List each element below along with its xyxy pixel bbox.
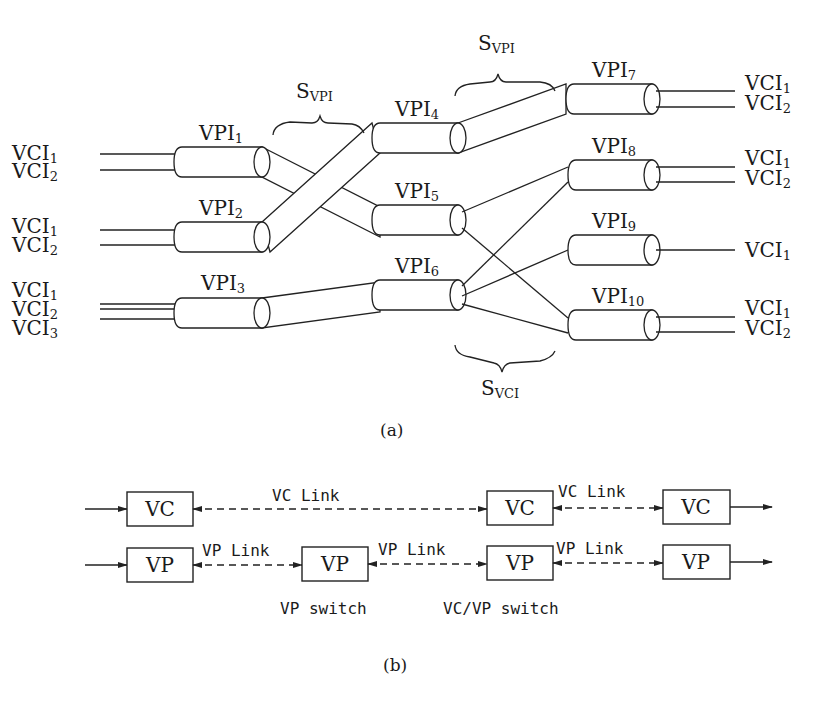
vp-switch-label: VP switch bbox=[280, 599, 367, 618]
vpi9-label: VPI9 bbox=[591, 209, 636, 234]
vc-link-label-1: VC Link bbox=[272, 486, 340, 505]
vpi6-label: VPI6 bbox=[394, 254, 439, 279]
vpi2-cylinder bbox=[174, 222, 270, 252]
vpi8-label: VPI8 bbox=[591, 134, 636, 159]
vpi8-cylinder bbox=[568, 160, 660, 190]
vpi7-label: VPI7 bbox=[591, 58, 636, 83]
caption-b: (b) bbox=[383, 655, 407, 675]
vpi3-label: VPI3 bbox=[200, 271, 245, 296]
svg-text:VP: VP bbox=[145, 553, 174, 577]
caption-a: (a) bbox=[380, 420, 403, 440]
vpi5-label: VPI5 bbox=[394, 179, 439, 204]
vc-switch-lines bbox=[462, 167, 568, 333]
part-b-link-hierarchy: VC VC VC VC Link VC Link VP VP VP VP VP … bbox=[85, 482, 772, 675]
atm-vp-vc-switching-diagram: VCI1 VCI2 VCI1 VCI2 VCI1 VCI2 VCI3 VPI1 … bbox=[0, 0, 824, 710]
vp-link-label-2: VP Link bbox=[378, 540, 446, 559]
vp-row: VP VP VP VP VP Link VP Link VP Link bbox=[85, 539, 772, 582]
vpi2-label: VPI2 bbox=[198, 196, 243, 221]
vpi6-cylinder bbox=[372, 280, 466, 310]
svpi-left-label: SVPI bbox=[296, 79, 333, 104]
svpi-left-brace bbox=[273, 116, 364, 135]
output-vci-lines bbox=[656, 91, 735, 332]
vc-row: VC VC VC VC Link VC Link bbox=[85, 482, 772, 526]
svci-label: SVCI bbox=[481, 376, 519, 401]
svg-text:VC: VC bbox=[504, 496, 535, 520]
vpi4-cylinder bbox=[372, 123, 466, 153]
vpi7-cylinder bbox=[566, 84, 660, 114]
vpi1-label: VPI1 bbox=[198, 121, 243, 146]
svg-text:VC: VC bbox=[680, 495, 711, 519]
svci-brace bbox=[455, 345, 555, 372]
vpi4-label: VPI4 bbox=[394, 97, 439, 122]
vc-link-label-2: VC Link bbox=[558, 482, 626, 501]
vpi1-cylinder bbox=[174, 147, 270, 177]
vp-link-label-3: VP Link bbox=[556, 539, 624, 558]
vpi3-cylinder bbox=[174, 298, 270, 328]
svpi-right-label: SVPI bbox=[478, 31, 515, 56]
input-vci-lines bbox=[100, 154, 176, 319]
output-vci-labels: VCI1 VCI2 VCI1 VCI2 VCI1 VCI1 VCI2 bbox=[744, 71, 791, 341]
vc-vp-switch-label: VC/VP switch bbox=[443, 599, 559, 618]
vp-link-label-1: VP Link bbox=[202, 541, 270, 560]
vpi10-label: VPI10 bbox=[591, 284, 644, 309]
svg-text:VCI1: VCI1 bbox=[744, 238, 791, 263]
vpi9-cylinder bbox=[568, 235, 660, 265]
vpi10-cylinder bbox=[568, 310, 660, 340]
part-a-vp-vc-switching: VCI1 VCI2 VCI1 VCI2 VCI1 VCI2 VCI3 VPI1 … bbox=[11, 31, 791, 440]
input-vci-labels: VCI1 VCI2 VCI1 VCI2 VCI1 VCI2 VCI3 bbox=[11, 141, 58, 341]
svg-text:VP: VP bbox=[681, 550, 710, 574]
svg-text:VC: VC bbox=[144, 497, 175, 521]
vpi5-cylinder bbox=[372, 205, 466, 235]
svg-text:VP: VP bbox=[505, 551, 534, 575]
svg-text:VP: VP bbox=[320, 552, 349, 576]
